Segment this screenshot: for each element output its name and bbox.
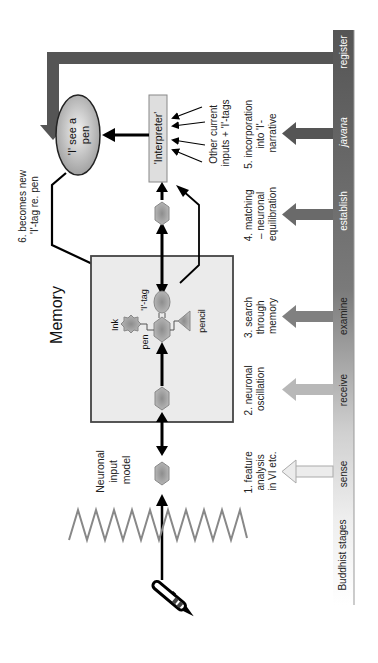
interpreter-output-arrowhead: [102, 128, 115, 142]
input-model-label: Neuronal input model: [94, 447, 132, 493]
i-tag-node: [154, 291, 170, 313]
step-5-label: 5. incorporation into 'I'- narrative: [243, 97, 278, 169]
step-6-label: 6. becomes new 'I'-tag re. pen: [17, 167, 40, 243]
i-tag-label: 'I'-tag: [139, 289, 149, 310]
memory-lower-hexagon: [155, 387, 169, 410]
pen-drawing-icon: [151, 578, 197, 619]
step-1-label: 1. feature analysis in VI etc.: [243, 448, 278, 493]
stages-label: Buddhist stages: [337, 519, 348, 590]
input-hexagon: [155, 462, 169, 485]
pencil-label: pencil: [197, 309, 207, 333]
step-3-label: 3. search through memory: [243, 294, 278, 338]
stage-examine: examine: [338, 297, 349, 335]
stage-arrows: [282, 122, 333, 483]
interpreter-label: 'Interpreter': [152, 112, 164, 164]
stage-register: register: [338, 35, 349, 69]
i-see-pen-node: [56, 95, 100, 175]
step-4-label: 4. matching – neuronal equilibration: [243, 187, 278, 241]
pen-label: pen: [140, 334, 150, 349]
memory-title: Memory: [48, 286, 65, 344]
upper-hexagon: [155, 202, 169, 225]
other-inputs-label: Other current inputs + 'I'-tags: [208, 100, 231, 167]
stage-javana: javana: [338, 117, 349, 149]
ink-label: Ink: [110, 319, 120, 332]
diagram-canvas: register javana establish examine receiv…: [0, 0, 378, 663]
stage-receive: receive: [338, 373, 349, 406]
other-inputs-arrows: [173, 107, 205, 162]
pen-node: [154, 317, 170, 342]
stage-establish: establish: [338, 191, 349, 230]
step-2-label: 2. neuronal oscillation: [243, 363, 266, 416]
light-wave-zigzag: [69, 510, 247, 540]
ink-node: [121, 315, 141, 333]
stage-sense: sense: [338, 460, 349, 487]
